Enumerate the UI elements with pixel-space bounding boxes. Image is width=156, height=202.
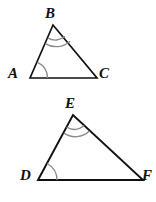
triangle-abc (30, 25, 97, 78)
geometry-figure: A B C D E F (0, 0, 156, 202)
vertex-label-f: F (142, 168, 152, 183)
triangle-abc-outline (30, 25, 97, 78)
angle-arc-d-1 (47, 164, 57, 181)
triangle-def (38, 115, 143, 180)
vertex-label-e: E (65, 96, 75, 111)
angle-arc-a-1 (38, 62, 48, 78)
angle-arc-e-2 (64, 131, 90, 137)
vertex-label-a: A (8, 66, 18, 81)
vertex-label-c: C (99, 66, 109, 81)
vertex-label-d: D (20, 168, 31, 183)
vertex-label-b: B (45, 6, 55, 21)
angle-arc-e-1 (67, 126, 85, 130)
